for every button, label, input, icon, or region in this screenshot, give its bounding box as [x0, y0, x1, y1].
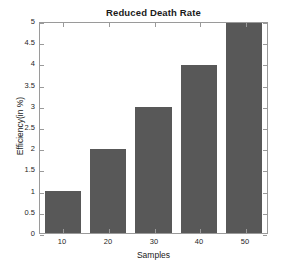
- y-tick-label: 4.5: [9, 39, 35, 47]
- y-tick-mark-right: [263, 87, 267, 88]
- y-tick-mark: [40, 214, 44, 215]
- bar-slot: [131, 23, 176, 233]
- y-tick-mark-right: [263, 235, 267, 236]
- bar[interactable]: [135, 107, 171, 233]
- y-tick-mark-right: [263, 65, 267, 66]
- bar[interactable]: [181, 65, 217, 233]
- y-tick-mark-right: [263, 108, 267, 109]
- bar-slot: [222, 23, 267, 233]
- x-tick-mark: [200, 229, 201, 233]
- x-tick-label: 50: [230, 237, 260, 246]
- x-axis-label: Samples: [39, 250, 268, 260]
- y-tick-mark: [40, 108, 44, 109]
- bar[interactable]: [226, 23, 262, 233]
- x-tick-mark: [155, 229, 156, 233]
- y-tick-mark: [40, 193, 44, 194]
- bar[interactable]: [45, 191, 81, 233]
- chart-figure: Reduced Death Rate 00.511.522.533.544.55…: [0, 0, 293, 274]
- x-tick-mark-top: [155, 23, 156, 27]
- y-tick-mark-right: [263, 23, 267, 24]
- plot-inner: [40, 23, 267, 233]
- x-tick-mark-top: [63, 23, 64, 27]
- y-tick-mark-right: [263, 193, 267, 194]
- y-tick-mark: [40, 235, 44, 236]
- x-tick-mark: [63, 229, 64, 233]
- y-tick-mark: [40, 129, 44, 130]
- y-tick-mark-right: [263, 150, 267, 151]
- x-tick-mark-top: [109, 23, 110, 27]
- bar-slot: [85, 23, 130, 233]
- bar-series: [40, 23, 267, 233]
- x-tick-label: 30: [139, 237, 169, 246]
- y-tick-label: 5: [9, 18, 35, 26]
- chart-title: Reduced Death Rate: [39, 7, 268, 18]
- y-tick-label: 1: [9, 188, 35, 196]
- y-tick-mark-right: [263, 214, 267, 215]
- x-tick-mark-top: [200, 23, 201, 27]
- y-tick-mark-right: [263, 171, 267, 172]
- x-tick-mark: [109, 229, 110, 233]
- x-tick-label: 20: [93, 237, 123, 246]
- y-tick-mark: [40, 44, 44, 45]
- bar-slot: [176, 23, 221, 233]
- bar-slot: [40, 23, 85, 233]
- y-tick-mark: [40, 150, 44, 151]
- y-tick-mark: [40, 87, 44, 88]
- x-tick-label: 10: [47, 237, 77, 246]
- y-tick-label: 0.5: [9, 209, 35, 217]
- y-tick-mark-right: [263, 129, 267, 130]
- x-tick-label: 40: [184, 237, 214, 246]
- x-tick-mark: [246, 229, 247, 233]
- y-tick-mark-right: [263, 44, 267, 45]
- plot-area: [39, 22, 268, 234]
- y-tick-mark: [40, 23, 44, 24]
- bar[interactable]: [90, 149, 126, 233]
- y-tick-mark: [40, 65, 44, 66]
- y-tick-label: 0: [9, 230, 35, 238]
- y-tick-mark: [40, 171, 44, 172]
- y-axis-label: Efficiency(in %): [15, 66, 25, 186]
- x-tick-mark-top: [246, 23, 247, 27]
